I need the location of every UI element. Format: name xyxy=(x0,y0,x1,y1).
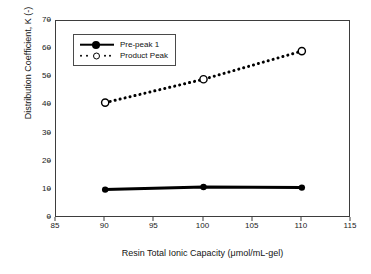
x-tick-label: 110 xyxy=(294,222,307,230)
y-tick-mark xyxy=(47,20,51,21)
legend-label-pre-peak-1: Pre-peak 1 xyxy=(120,41,159,49)
y-tick-mark xyxy=(47,160,51,161)
legend-key-solid-line-icon xyxy=(79,39,115,50)
data-point-pre-peak-1 xyxy=(200,184,206,190)
plot-area: Pre-peak 1 Product Peak xyxy=(55,20,350,217)
legend-label-product-peak: Product Peak xyxy=(120,52,168,60)
x-tick-label: 100 xyxy=(196,222,209,230)
y-axis-ticks: 010203040506070 xyxy=(28,20,51,217)
legend-item-product-peak: Product Peak xyxy=(79,50,168,61)
x-tick-label: 105 xyxy=(245,222,258,230)
x-tick-label: 85 xyxy=(51,222,60,230)
x-tick-label: 95 xyxy=(149,222,158,230)
x-tick-label: 115 xyxy=(344,222,357,230)
data-point-pre-peak-1 xyxy=(299,184,305,190)
data-point-product-peak xyxy=(200,76,207,83)
legend-item-pre-peak-1: Pre-peak 1 xyxy=(79,39,168,50)
legend: Pre-peak 1 Product Peak xyxy=(73,34,176,66)
y-tick-mark xyxy=(47,104,51,105)
y-tick-mark xyxy=(47,48,51,49)
y-tick-mark xyxy=(47,132,51,133)
legend-key-dotted-line-icon xyxy=(79,50,115,61)
x-axis-title: Resin Total Ionic Capacity (μmol/mL-gel) xyxy=(55,248,350,258)
y-tick-mark xyxy=(47,188,51,189)
x-axis-ticks: 859095100105110115 xyxy=(55,222,350,236)
data-point-product-peak xyxy=(102,99,109,106)
x-tick-label: 90 xyxy=(100,222,109,230)
chart-figure: Distribution Coefficient, K (-) 01020304… xyxy=(0,0,371,274)
data-point-product-peak xyxy=(298,48,305,55)
y-tick-mark xyxy=(47,217,51,218)
data-point-pre-peak-1 xyxy=(102,186,108,192)
y-tick-mark xyxy=(47,76,51,77)
